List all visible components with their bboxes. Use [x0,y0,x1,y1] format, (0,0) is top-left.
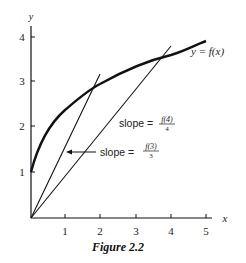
x-tick-label: 4 [168,225,174,237]
slope-f4-denominator: 4 [165,125,169,133]
curve-label: y = f(x) [190,45,224,58]
slope-label-f4: slope = [119,117,153,129]
arrow-head-icon [66,150,72,155]
chord-f4-over-4 [31,46,171,218]
slope-f3-denominator: 3 [149,152,153,160]
x-tick-label: 2 [97,225,103,237]
x-tick-label: 1 [62,225,68,237]
y-tick-label: 3 [19,75,25,87]
y-tick-label: 2 [19,120,25,132]
x-axis-label: x [222,212,228,224]
figure-canvas: 1 2 3 4 5 1 2 3 4 y x y = f(x) slope = f… [0,0,246,263]
y-tick-label: 4 [19,31,25,43]
slope-f3-numerator: f(3) [145,142,157,151]
slope-f4-numerator: f(4) [161,115,173,124]
figure-caption: Figure 2.2 [91,240,144,254]
slope-label-f3: slope = [100,146,134,158]
y-tick-label: 1 [19,166,25,178]
x-tick-label: 5 [203,225,209,237]
x-tick-label: 3 [133,225,139,237]
y-axis-label: y [28,11,34,22]
